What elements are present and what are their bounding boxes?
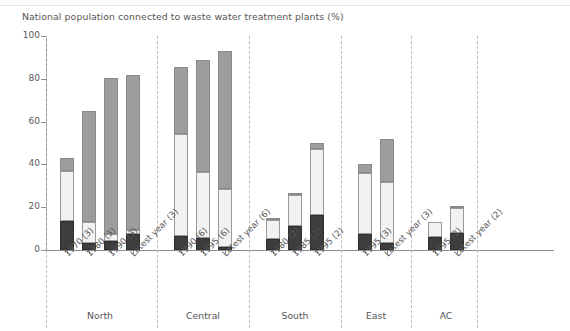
group-label: North: [87, 310, 113, 321]
y-tick-label: 80: [10, 74, 40, 83]
y-tick-label: 100: [10, 31, 40, 40]
y-tick-label: 40: [10, 159, 40, 168]
group-label: East: [366, 310, 386, 321]
group-label: South: [281, 310, 308, 321]
y-tick-label: 60: [10, 117, 40, 126]
y-tick-label: 20: [10, 202, 40, 211]
category-labels: 1970 (3)1980 (3)1990 (3)Latest year (3)1…: [0, 250, 570, 302]
group-labels: NorthCentralSouthEastAC: [0, 310, 570, 326]
top-divider: [0, 5, 570, 6]
group-label: AC: [440, 310, 453, 321]
chart-title: National population connected to waste w…: [22, 11, 344, 22]
group-label: Central: [186, 310, 220, 321]
y-axis-labels: 020406080100: [8, 36, 40, 250]
